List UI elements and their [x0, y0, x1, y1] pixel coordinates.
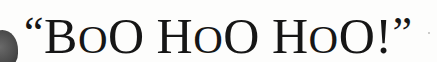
letter: B	[44, 8, 78, 62]
exclamation: !	[375, 8, 392, 62]
letter: H	[157, 8, 194, 62]
ink-blob	[0, 30, 18, 62]
open-quote: “	[24, 8, 44, 57]
letter: O	[78, 16, 108, 62]
boo-hoo-hoo-heading: “BOOHOOHOO!”	[24, 2, 412, 62]
letter: O	[309, 16, 339, 62]
letter: O	[193, 16, 223, 62]
letter: O	[339, 8, 376, 62]
speck	[428, 32, 430, 34]
close-quote: ”	[392, 8, 412, 57]
letter: O	[108, 8, 145, 62]
letter: H	[272, 8, 309, 62]
letter: O	[223, 8, 260, 62]
